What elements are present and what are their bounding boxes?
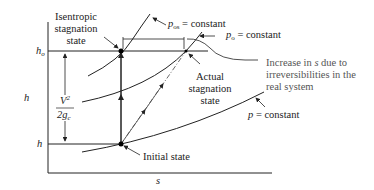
vel-den: 2gc [57, 109, 72, 122]
ho-tick: ho [36, 45, 45, 58]
vel-num: V2 [60, 94, 70, 106]
actual-label: Actual [196, 71, 224, 82]
initial-label: Initial state [143, 151, 190, 162]
svg-text:stagnation: stagnation [188, 83, 232, 94]
y-axis-label: h [24, 92, 29, 103]
pos-label: pos = constant [167, 18, 226, 31]
h-tick: h [37, 138, 42, 149]
svg-text:irreversibilities in the: irreversibilities in the [266, 69, 356, 80]
x-axis-label: s [156, 175, 160, 186]
isentropic-label: Isentropic [55, 11, 97, 22]
isentropic-point [119, 49, 124, 54]
po-label: po = constant [225, 29, 281, 42]
svg-text:state: state [200, 95, 220, 106]
actual-point [185, 50, 188, 53]
svg-text:real system: real system [266, 81, 314, 92]
p-const-label: p = constant [247, 109, 299, 120]
h-s-diagram: ho h h s V2 2gc Isentropic stagnation st… [0, 0, 374, 190]
initial-point [119, 142, 124, 147]
svg-text:stagnation: stagnation [54, 23, 98, 34]
increase-label: Increase in s due to [266, 57, 347, 68]
increase-leader [187, 39, 258, 60]
svg-text:state: state [66, 35, 86, 46]
arrow-actual-2 [145, 84, 163, 110]
p-curve [82, 92, 264, 152]
